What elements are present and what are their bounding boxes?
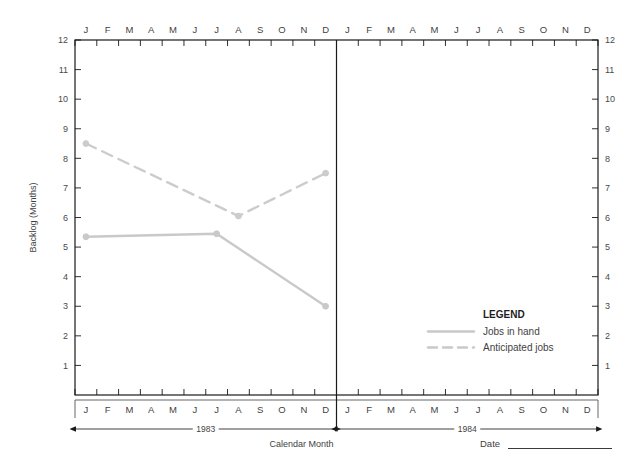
year-bracket-1983: 1983 bbox=[76, 424, 336, 434]
y-tick-label-left: 10 bbox=[58, 94, 68, 104]
month-label-bottom: F bbox=[366, 404, 372, 415]
series-jobs-in-hand bbox=[83, 231, 329, 309]
month-label-top: O bbox=[278, 24, 285, 35]
y-tick-label-left: 5 bbox=[63, 242, 68, 252]
y-tick-label-left: 3 bbox=[63, 301, 68, 311]
month-label-bottom: J bbox=[192, 404, 197, 415]
y-axis-title: Backlog (Months) bbox=[28, 182, 38, 252]
month-label-top: A bbox=[410, 24, 417, 35]
series-line bbox=[86, 234, 326, 306]
y-tick-label-left: 1 bbox=[63, 361, 68, 371]
y-tick-label-right: 3 bbox=[605, 301, 610, 311]
month-label-bottom: N bbox=[562, 404, 569, 415]
year-label: 1984 bbox=[458, 424, 477, 434]
month-label-bottom: J bbox=[454, 404, 459, 415]
y-tick-label-right: 7 bbox=[605, 183, 610, 193]
data-point[interactable] bbox=[323, 303, 329, 309]
month-label-bottom: A bbox=[148, 404, 155, 415]
year-label: 1983 bbox=[196, 424, 215, 434]
y-tick-label-left: 11 bbox=[59, 65, 68, 75]
month-label-top: A bbox=[235, 24, 242, 35]
month-label-top: M bbox=[431, 24, 439, 35]
month-label-bottom: S bbox=[519, 404, 525, 415]
month-label-bottom: S bbox=[257, 404, 263, 415]
month-label-top: M bbox=[126, 24, 134, 35]
month-label-bottom: J bbox=[345, 404, 350, 415]
series-anticipated-jobs bbox=[83, 141, 329, 219]
y-tick-label-right: 8 bbox=[605, 154, 610, 164]
x-axis-title: Calendar Month bbox=[269, 439, 333, 449]
y-tick-label-right: 2 bbox=[605, 331, 610, 341]
data-point[interactable] bbox=[236, 213, 242, 219]
legend: LEGENDJobs in handAnticipated jobs bbox=[428, 309, 554, 353]
month-label-top: F bbox=[105, 24, 111, 35]
month-label-top: F bbox=[366, 24, 372, 35]
data-point[interactable] bbox=[214, 231, 220, 237]
month-label-bottom: O bbox=[278, 404, 285, 415]
y-tick-label-right: 10 bbox=[605, 94, 615, 104]
month-label-bottom: D bbox=[584, 404, 591, 415]
month-label-bottom: A bbox=[497, 404, 504, 415]
y-tick-label-right: 1 bbox=[605, 361, 610, 371]
month-label-bottom: M bbox=[431, 404, 439, 415]
date-label: Date bbox=[480, 438, 500, 449]
month-label-bottom: M bbox=[126, 404, 134, 415]
month-label-bottom: N bbox=[300, 404, 307, 415]
y-tick-label-left: 6 bbox=[63, 213, 68, 223]
month-label-top: N bbox=[300, 24, 307, 35]
month-label-bottom: M bbox=[387, 404, 395, 415]
legend-title: LEGEND bbox=[483, 309, 525, 320]
month-label-bottom: J bbox=[214, 404, 219, 415]
month-label-top: N bbox=[562, 24, 569, 35]
month-label-bottom: M bbox=[169, 404, 177, 415]
month-label-bottom: O bbox=[540, 404, 547, 415]
month-label-top: M bbox=[169, 24, 177, 35]
month-label-top: J bbox=[214, 24, 219, 35]
y-tick-label-left: 4 bbox=[63, 272, 68, 282]
month-label-top: J bbox=[454, 24, 459, 35]
month-label-top: S bbox=[257, 24, 263, 35]
month-label-top: A bbox=[497, 24, 504, 35]
month-label-bottom: A bbox=[410, 404, 417, 415]
month-label-top: M bbox=[387, 24, 395, 35]
y-tick-label-right: 5 bbox=[605, 242, 610, 252]
month-label-top: A bbox=[148, 24, 155, 35]
y-tick-label-left: 7 bbox=[63, 183, 68, 193]
month-label-top: J bbox=[192, 24, 197, 35]
month-label-bottom: A bbox=[235, 404, 242, 415]
backlog-line-chart: 112233445566778899101011111212Backlog (M… bbox=[0, 0, 641, 459]
data-point[interactable] bbox=[83, 141, 89, 147]
month-label-top: S bbox=[519, 24, 525, 35]
legend-item-label: Jobs in hand bbox=[483, 326, 540, 337]
y-tick-label-right: 4 bbox=[605, 272, 610, 282]
month-label-top: J bbox=[84, 24, 89, 35]
month-label-top: D bbox=[584, 24, 591, 35]
month-label-bottom: F bbox=[105, 404, 111, 415]
series-line bbox=[86, 144, 326, 216]
y-tick-label-left: 9 bbox=[63, 124, 68, 134]
month-label-bottom: J bbox=[476, 404, 481, 415]
data-point[interactable] bbox=[83, 234, 89, 240]
chart-page: 112233445566778899101011111212Backlog (M… bbox=[0, 0, 641, 459]
month-label-top: J bbox=[345, 24, 350, 35]
month-label-top: O bbox=[540, 24, 547, 35]
y-tick-label-left: 12 bbox=[58, 35, 68, 45]
y-tick-label-right: 9 bbox=[605, 124, 610, 134]
data-point[interactable] bbox=[323, 170, 329, 176]
y-tick-label-right: 12 bbox=[605, 35, 615, 45]
year-bracket-1984: 1984 bbox=[338, 424, 598, 434]
month-label-bottom: J bbox=[84, 404, 89, 415]
y-tick-label-left: 8 bbox=[63, 154, 68, 164]
month-label-top: J bbox=[476, 24, 481, 35]
month-label-top: D bbox=[322, 24, 329, 35]
y-tick-label-right: 6 bbox=[605, 213, 610, 223]
y-tick-label-left: 2 bbox=[63, 331, 68, 341]
month-label-bottom: D bbox=[322, 404, 329, 415]
legend-item-label: Anticipated jobs bbox=[483, 342, 554, 353]
y-tick-label-right: 11 bbox=[605, 65, 614, 75]
